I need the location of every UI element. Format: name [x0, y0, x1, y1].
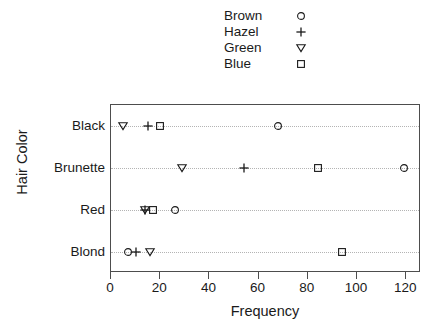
data-point-brown-black [271, 119, 285, 133]
triangle-down-icon [288, 41, 314, 55]
data-point-brown-red [168, 203, 182, 217]
data-point-green-blond [143, 245, 157, 259]
y-axis-tick-label-black: Black [72, 118, 105, 133]
legend-item-green: Green [224, 40, 314, 56]
x-axis-tick [258, 272, 259, 279]
legend-item-label: Blue [224, 56, 288, 72]
x-axis-tick-label: 100 [345, 280, 368, 295]
data-point-hazel-brunette [237, 161, 251, 175]
x-axis-tick [307, 272, 308, 279]
x-axis-tick [208, 272, 209, 279]
data-point-hazel-blond [129, 245, 143, 259]
y-axis-title: Hair Color [14, 112, 30, 212]
x-axis-tick [405, 272, 406, 279]
chart-canvas: BrownHazelGreenBlue BlackBrunetteRedBlon… [0, 0, 442, 334]
data-point-blue-brunette [311, 161, 325, 175]
data-point-green-brunette [175, 161, 189, 175]
gridline [111, 168, 419, 169]
x-axis-tick [356, 272, 357, 279]
x-axis-tick-label: 80 [299, 280, 314, 295]
legend-item-blue: Blue [224, 56, 314, 72]
square-icon [288, 57, 314, 71]
legend: BrownHazelGreenBlue [224, 8, 314, 72]
data-point-brown-brunette [397, 161, 411, 175]
legend-item-label: Green [224, 40, 288, 56]
x-axis-tick-label: 20 [152, 280, 167, 295]
x-axis: 020406080100120 [110, 272, 420, 282]
x-axis-tick-label: 60 [250, 280, 265, 295]
x-axis-tick-label: 0 [106, 280, 114, 295]
data-point-blue-blond [335, 245, 349, 259]
plot-area [110, 104, 420, 272]
y-axis-tick-label-red: Red [80, 202, 105, 217]
legend-item-label: Brown [224, 8, 288, 24]
x-axis-tick-label: 120 [394, 280, 417, 295]
data-point-green-black [116, 119, 130, 133]
x-axis-tick [110, 272, 111, 279]
legend-item-label: Hazel [224, 24, 288, 40]
plus-icon [288, 25, 314, 39]
x-axis-tick-label: 40 [201, 280, 216, 295]
legend-item-hazel: Hazel [224, 24, 314, 40]
circle-icon [288, 9, 314, 23]
legend-item-brown: Brown [224, 8, 314, 24]
y-axis-tick-label-blond: Blond [70, 244, 105, 259]
data-point-blue-black [153, 119, 167, 133]
data-point-blue-red [146, 203, 160, 217]
y-axis-tick-label-brunette: Brunette [54, 160, 105, 175]
x-axis-title: Frequency [110, 303, 420, 319]
x-axis-tick [159, 272, 160, 279]
